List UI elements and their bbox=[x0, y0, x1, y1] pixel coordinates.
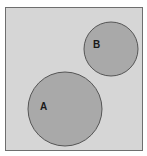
set-a-label: A bbox=[40, 101, 47, 112]
venn-diagram: A B bbox=[0, 0, 147, 156]
set-b-label: B bbox=[93, 39, 100, 50]
